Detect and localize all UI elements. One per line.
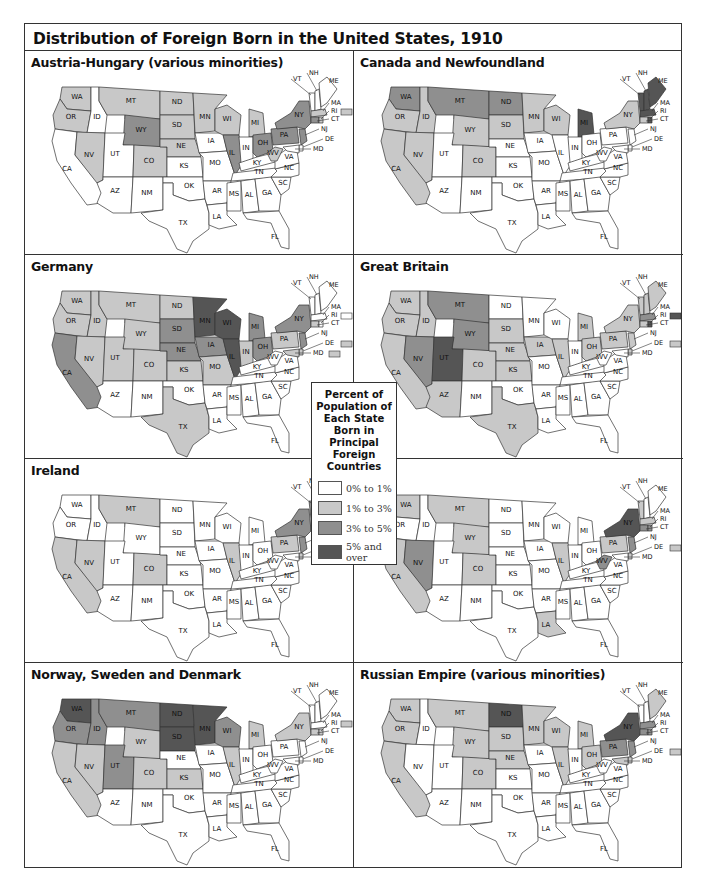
state-label: WV bbox=[267, 761, 279, 769]
state-label: WV bbox=[596, 761, 608, 769]
state-label: WA bbox=[71, 501, 83, 509]
state-callout-label: RI bbox=[660, 515, 667, 523]
inset-box-ri bbox=[341, 721, 352, 727]
state-label: OK bbox=[513, 590, 524, 598]
state-label: OR bbox=[66, 317, 77, 325]
state-label: CO bbox=[473, 361, 484, 369]
panel-italy: Italy WAORCAIDNVMTWYUTAZCONMNDSDNEKSOKTX… bbox=[354, 459, 683, 663]
legend-swatch bbox=[318, 545, 342, 559]
state-label: WV bbox=[267, 353, 279, 361]
state-label: IA bbox=[537, 341, 544, 349]
state-label: AL bbox=[245, 599, 254, 607]
legend-swatch bbox=[318, 481, 342, 495]
state-callout-label: VT bbox=[622, 483, 630, 491]
state-label: MS bbox=[558, 394, 569, 402]
state-label: WY bbox=[464, 738, 476, 746]
state-label: OR bbox=[395, 725, 406, 733]
state-label: MI bbox=[251, 527, 259, 535]
state-callout-label: MD bbox=[642, 757, 653, 765]
state-label: NM bbox=[141, 597, 152, 605]
state-label: WI bbox=[223, 523, 232, 531]
state-callout-label: CT bbox=[660, 319, 669, 327]
state-callout-label: CT bbox=[660, 115, 669, 123]
state-label: IL bbox=[558, 557, 564, 565]
state-callout-label: NH bbox=[309, 69, 319, 77]
state-az bbox=[97, 381, 133, 417]
state-label: VA bbox=[613, 561, 622, 569]
state-label: ND bbox=[172, 710, 183, 718]
state-label: WA bbox=[400, 501, 412, 509]
state-label: CO bbox=[144, 361, 155, 369]
state-label: PA bbox=[609, 539, 618, 547]
state-label: CO bbox=[144, 769, 155, 777]
state-label: VA bbox=[613, 153, 622, 161]
state-label: UT bbox=[110, 558, 120, 566]
inset-box-de bbox=[670, 749, 681, 755]
state-az bbox=[97, 585, 133, 621]
inset-box-de bbox=[341, 341, 352, 347]
state-label: KS bbox=[179, 774, 189, 782]
state-label: SC bbox=[607, 791, 616, 799]
state-label: MN bbox=[199, 317, 210, 325]
state-callout-label: NJ bbox=[650, 125, 657, 133]
state-label: CO bbox=[473, 565, 484, 573]
state-callout-label: MD bbox=[642, 145, 653, 153]
state-label: ID bbox=[422, 317, 429, 325]
state-callout-label: ME bbox=[329, 281, 339, 289]
state-label: AL bbox=[574, 803, 583, 811]
state-label: AR bbox=[212, 391, 222, 399]
state-label: ND bbox=[501, 506, 512, 514]
state-label: CO bbox=[473, 769, 484, 777]
state-label: OH bbox=[587, 343, 598, 351]
state-callout-label: DE bbox=[325, 747, 334, 755]
state-az bbox=[426, 381, 462, 417]
state-label: IA bbox=[208, 749, 215, 757]
state-callout-label: ME bbox=[658, 77, 668, 85]
us-map: WAORCAIDNVMTWYUTAZCONMNDSDNEKSOKTXMNIAMO… bbox=[25, 459, 354, 663]
state-label: FL bbox=[271, 641, 279, 649]
state-label: MS bbox=[558, 802, 569, 810]
state-label: MS bbox=[229, 802, 240, 810]
state-label: TX bbox=[506, 423, 516, 431]
state-label: OK bbox=[184, 794, 195, 802]
state-label: OH bbox=[258, 547, 269, 555]
state-label: NE bbox=[505, 550, 515, 558]
us-map: WAORCAIDNVMTWYUTAZCONMNDSDNEKSOKTXMNIAMO… bbox=[25, 663, 354, 867]
state-de bbox=[628, 145, 632, 151]
state-label: MT bbox=[126, 97, 137, 105]
state-label: ID bbox=[93, 521, 100, 529]
state-label: NV bbox=[84, 559, 94, 567]
state-callout-label: DE bbox=[325, 339, 334, 347]
state-callout-label: VT bbox=[622, 687, 630, 695]
state-label: WA bbox=[71, 297, 83, 305]
figure-frame: Distribution of Foreign Born in the Unit… bbox=[24, 23, 682, 868]
state-label: GA bbox=[262, 597, 272, 605]
state-label: IL bbox=[558, 353, 564, 361]
state-label: WV bbox=[596, 149, 608, 157]
state-label: SD bbox=[501, 733, 511, 741]
state-label: NY bbox=[294, 111, 304, 119]
state-label: UT bbox=[439, 150, 449, 158]
us-map: WAORCAIDNVMTWYUTAZCONMNDSDNEKSOKTXMNIAMO… bbox=[354, 51, 683, 255]
state-label: LA bbox=[542, 825, 551, 833]
state-label: OR bbox=[395, 113, 406, 121]
state-de bbox=[628, 757, 632, 763]
state-label: GA bbox=[591, 189, 601, 197]
state-fl bbox=[243, 211, 289, 249]
state-label: NM bbox=[141, 801, 152, 809]
state-label: WV bbox=[267, 557, 279, 565]
state-label: AL bbox=[245, 191, 254, 199]
state-de bbox=[299, 553, 303, 559]
state-label: SD bbox=[172, 529, 182, 537]
state-label: MO bbox=[209, 159, 221, 167]
state-label: KY bbox=[582, 159, 591, 167]
state-callout-label: ME bbox=[658, 485, 668, 493]
state-label: AR bbox=[541, 799, 551, 807]
state-label: IL bbox=[229, 353, 235, 361]
state-callout-label: RI bbox=[331, 719, 338, 727]
state-label: UT bbox=[110, 354, 120, 362]
state-label: WY bbox=[464, 330, 476, 338]
state-label: AZ bbox=[110, 187, 120, 195]
state-label: IL bbox=[558, 149, 564, 157]
state-label: NV bbox=[84, 355, 94, 363]
